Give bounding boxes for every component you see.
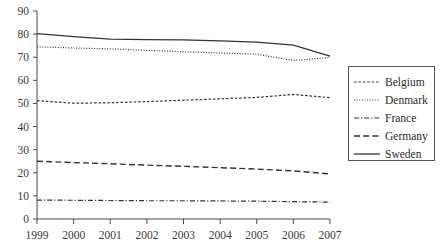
y-tick-label: 90 — [18, 5, 30, 17]
x-tick-label: 2002 — [135, 229, 158, 241]
x-tick-label: 2000 — [62, 229, 85, 241]
x-tick-label: 2003 — [172, 229, 195, 241]
y-axis-tick-labels: 0102030405060708090 — [18, 5, 30, 225]
x-axis-group: 199920002001200220032004200520062007 — [26, 219, 342, 241]
x-tick-label: 2006 — [282, 229, 305, 241]
chart-svg: 0102030405060708090 19992000200120022003… — [0, 0, 443, 252]
legend-label-france: France — [385, 112, 416, 124]
y-tick-label: 60 — [18, 74, 30, 86]
legend-label-denmark: Denmark — [385, 94, 428, 106]
legend: BelgiumDenmarkFranceGermanySweden — [349, 67, 435, 161]
data-series-group — [37, 34, 330, 202]
y-axis-group: 0102030405060708090 — [18, 5, 38, 225]
y-tick-label: 10 — [18, 190, 30, 202]
y-tick-label: 50 — [18, 97, 30, 109]
series-line-denmark — [37, 47, 330, 61]
y-axis-ticks — [33, 11, 37, 219]
x-axis-ticks — [37, 219, 330, 224]
y-tick-label: 0 — [23, 213, 29, 225]
series-line-germany — [37, 161, 330, 174]
x-tick-label: 2007 — [319, 229, 342, 241]
series-line-france — [37, 200, 330, 202]
y-tick-label: 70 — [18, 51, 30, 63]
y-tick-label: 40 — [18, 121, 30, 133]
y-tick-label: 30 — [18, 144, 30, 156]
y-tick-label: 80 — [18, 28, 30, 40]
x-tick-label: 2005 — [245, 229, 268, 241]
line-chart-figure: 0102030405060708090 19992000200120022003… — [0, 0, 443, 252]
legend-label-sweden: Sweden — [385, 148, 422, 160]
series-line-belgium — [37, 94, 330, 103]
series-line-sweden — [37, 34, 330, 56]
x-tick-label: 2004 — [209, 229, 232, 241]
x-tick-label: 2001 — [99, 229, 122, 241]
legend-label-germany: Germany — [385, 130, 428, 143]
legend-label-belgium: Belgium — [385, 76, 425, 89]
x-axis-tick-labels: 199920002001200220032004200520062007 — [26, 229, 342, 241]
y-tick-label: 20 — [18, 167, 30, 179]
x-tick-label: 1999 — [26, 229, 49, 241]
